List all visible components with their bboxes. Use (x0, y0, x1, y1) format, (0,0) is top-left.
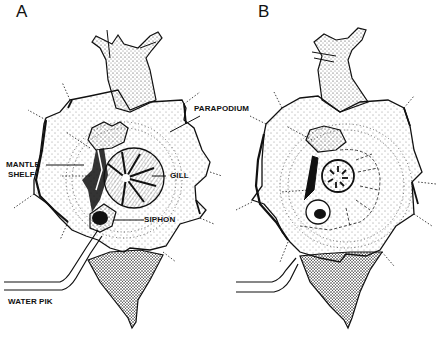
figure-canvas (0, 0, 444, 337)
panel-a-drawing (4, 30, 222, 328)
parapodium-label: PARAPODIUM (194, 104, 249, 114)
gill-label: GILL (170, 171, 189, 181)
mantle-shelf-label-line1: MANTLE (6, 160, 40, 170)
water-pik-tube-b (236, 258, 296, 282)
mantle-shelf-label-line2: SHELF (8, 170, 35, 180)
siphon-label: SIPHON (144, 215, 175, 225)
panel-label-b: B (258, 2, 269, 22)
gill-a (104, 148, 164, 208)
water-pik-tube-a (4, 230, 98, 282)
tail-b (300, 252, 382, 328)
panel-b-drawing (236, 28, 436, 328)
panel-label-a: A (16, 2, 27, 22)
tail-a (88, 250, 163, 328)
water-pik-label: WATER PIK (8, 297, 53, 307)
gill-b (322, 160, 354, 192)
